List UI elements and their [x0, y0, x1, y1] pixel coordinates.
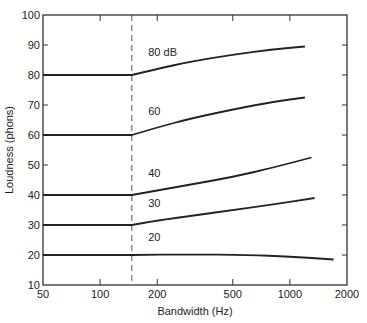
x-axis-title: Bandwidth (Hz) — [157, 305, 232, 317]
x-tick-label: 2000 — [335, 288, 359, 300]
x-tick-label: 50 — [37, 288, 49, 300]
y-tick-label: 30 — [28, 219, 40, 231]
curve-label: 30 — [148, 197, 160, 209]
loudness-vs-bandwidth-chart: 1020304050607080901005010020050010002000… — [0, 0, 367, 323]
x-tick-label: 100 — [91, 288, 109, 300]
curve-label: 20 — [148, 231, 160, 243]
x-tick-label: 500 — [224, 288, 242, 300]
y-tick-label: 20 — [28, 249, 40, 261]
curve-label: 60 — [148, 105, 160, 117]
y-tick-label: 60 — [28, 129, 40, 141]
y-tick-label: 40 — [28, 189, 40, 201]
loudness-curves — [43, 47, 334, 260]
y-tick-label: 50 — [28, 159, 40, 171]
plot-frame — [43, 15, 347, 285]
x-tick-label: 1000 — [278, 288, 302, 300]
loudness-curve-30-dB — [43, 198, 315, 225]
loudness-curve-60-dB — [43, 98, 305, 136]
y-tick-label: 100 — [22, 9, 40, 21]
y-tick-label: 80 — [28, 69, 40, 81]
loudness-curve-40-dB — [43, 158, 311, 196]
loudness-curve-20-dB — [43, 255, 334, 260]
x-tick-label: 200 — [148, 288, 166, 300]
y-tick-label: 70 — [28, 99, 40, 111]
plot-axes — [43, 15, 347, 285]
y-axis-title: Loudness (phons) — [3, 106, 15, 194]
axis-labels: 1020304050607080901005010020050010002000… — [3, 9, 359, 317]
curve-label: 40 — [148, 167, 160, 179]
y-tick-label: 90 — [28, 39, 40, 51]
curve-label: 80 dB — [148, 46, 177, 58]
